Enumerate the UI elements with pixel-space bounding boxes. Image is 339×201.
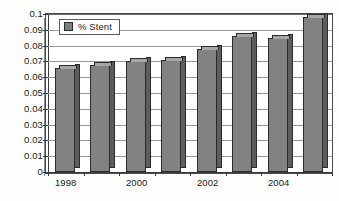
bar-side-face [217,45,222,168]
value-axis-tick-label: 0.1 [0,9,43,19]
category-axis-tick-label: 2004 [261,178,297,188]
bars-group [48,14,332,172]
bar [197,49,217,172]
bar-top-face [165,57,183,61]
bar [55,68,75,172]
bar [232,36,252,172]
value-axis-tick-label: 0.06 [0,72,43,82]
category-axis-tick-label: 2002 [190,178,226,188]
bar-slot [297,14,333,172]
bar-top-face [307,14,325,18]
category-axis-tick-mark [48,172,49,176]
value-axis-tick-label: 0.08 [0,41,43,51]
chart-legend: % Stent [59,19,120,35]
bar-slot [48,14,84,172]
value-axis-tick-label: 0.04 [0,104,43,114]
bar [126,61,146,172]
value-axis-tick-label: 0.01 [0,151,43,161]
bar-top-face [94,62,112,66]
category-axis-tick-mark [297,172,298,176]
category-axis-tick-mark [261,172,262,176]
bar-slot [226,14,262,172]
value-axis-tick-label: 0.05 [0,88,43,98]
category-axis-tick-labels: 1998200020022004 [48,178,332,194]
bar [161,60,181,172]
bar [268,38,288,172]
value-axis-tick-label: 0 [0,167,43,177]
bar-top-face [236,33,254,37]
bar-side-face [252,32,257,168]
bar [303,17,323,172]
category-axis-tick-mark [226,172,227,176]
bar-side-face [146,57,151,168]
bar-top-face [59,65,77,69]
category-axis-tick-mark [84,172,85,176]
bar-top-face [272,35,290,39]
bar-chart-figure: 00.010.020.030.040.050.060.070.080.090.1… [0,0,339,201]
category-axis-tick-mark [332,172,333,176]
category-axis-tick-mark [155,172,156,176]
category-axis-tick-label: 2000 [119,178,155,188]
legend-entry-label: % Stent [78,22,112,32]
bar-slot [261,14,297,172]
bar-side-face [323,13,328,168]
value-axis-tick-label: 0.09 [0,25,43,35]
bar [90,65,110,172]
plot-area [48,14,332,172]
category-axis-tick-label: 1998 [48,178,84,188]
bar-top-face [130,58,148,62]
bar-slot [155,14,191,172]
legend-swatch-icon [64,22,73,31]
category-axis-tick-mark [190,172,191,176]
bar-slot [190,14,226,172]
bar-top-face [201,46,219,50]
value-axis-tick-label: 0.02 [0,136,43,146]
bar-side-face [75,64,80,168]
bar-slot [84,14,120,172]
value-axis-tick-label: 0.03 [0,120,43,130]
value-axis-tick-label: 0.07 [0,57,43,67]
category-axis-tick-mark [119,172,120,176]
bar-side-face [110,61,115,168]
bar-slot [119,14,155,172]
bar-side-face [288,34,293,168]
bar-side-face [181,56,186,168]
